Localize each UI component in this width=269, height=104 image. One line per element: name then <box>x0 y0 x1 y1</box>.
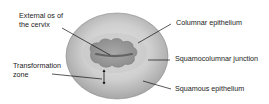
columnar-epithelium-region <box>90 38 137 67</box>
label-external-os: External os of the cervix <box>19 12 63 29</box>
label-squamous-epithelium: Squamous epithelium <box>175 85 244 94</box>
label-columnar-epithelium: Columnar epithelium <box>176 19 242 28</box>
label-transformation-zone: Transformation zone <box>13 62 61 79</box>
label-squamocolumnar-junction: Squamocolumnar junction <box>175 55 258 64</box>
